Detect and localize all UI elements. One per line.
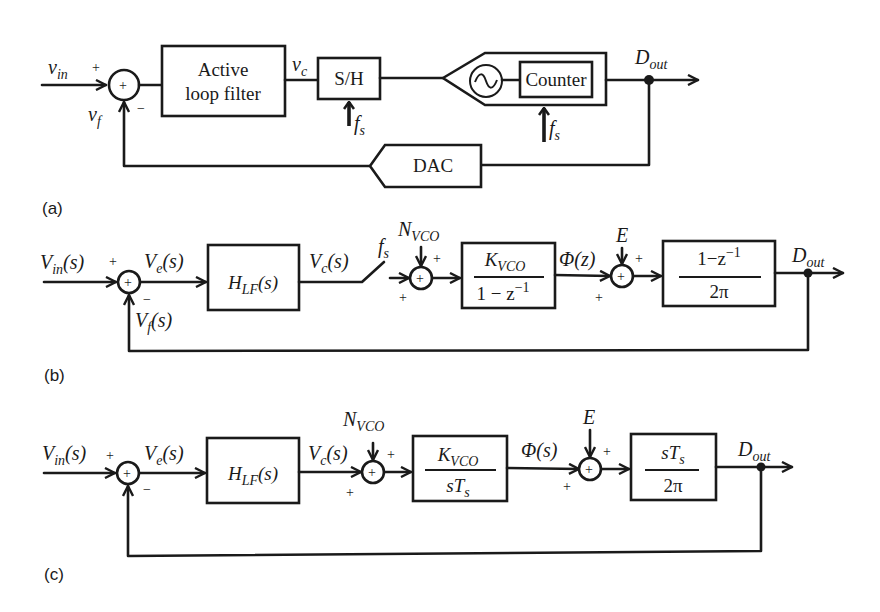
sign-minus-a: − — [137, 101, 145, 116]
signal-dout-a: Dout — [634, 46, 668, 72]
svg-text:S/H: S/H — [334, 68, 364, 89]
signal-vc-c: Vc(s) — [308, 442, 348, 468]
sample-hold-block: S/H — [318, 58, 380, 99]
loop-filter-block-c: HLF(s) — [207, 438, 299, 503]
active-loop-filter-block: Active loop filter — [162, 46, 285, 116]
signal-vc-a: vc — [292, 53, 308, 79]
signal-fs-sh: fs — [354, 112, 366, 138]
signal-vin-c: Vin(s) — [42, 442, 87, 468]
svg-text:DAC: DAC — [413, 155, 453, 176]
svg-text:+: + — [123, 466, 131, 481]
differentiator-block-c: sTs 2π — [631, 434, 716, 500]
panel-a: vin + + − vf Active loop filter vc S/H f… — [42, 46, 698, 218]
sign-minus-b1: − — [143, 292, 151, 307]
signal-e-c: E — [582, 406, 595, 428]
svg-text:loop filter: loop filter — [185, 83, 261, 104]
panel-c: Vin(s) + + − Ve(s) HLF(s) Vc(s) + NVCO +… — [42, 406, 792, 584]
sign-plus-c3-in: + — [563, 479, 571, 494]
sign-plus-b3-top: + — [635, 251, 643, 266]
summing-junction-c1: + — [117, 462, 139, 484]
sign-plus-c2-top: + — [387, 447, 395, 462]
signal-phi-z: Φ(z) — [559, 248, 596, 271]
counter-label: Counter — [525, 69, 587, 90]
vco-counter-block: Counter — [443, 53, 606, 105]
summing-junction-c3: + — [579, 458, 601, 480]
svg-text:+: + — [368, 465, 376, 480]
differentiator-block-b: 1−z−1 2π — [663, 241, 775, 306]
svg-text:+: + — [585, 462, 593, 477]
summing-junction-b2: + — [410, 267, 432, 289]
signal-vf-b: Vf(s) — [135, 309, 173, 335]
summing-junction-b3: + — [611, 265, 633, 287]
svg-text:+: + — [124, 275, 132, 290]
dac-block: DAC — [370, 145, 481, 187]
sign-plus-c1: + — [106, 448, 114, 463]
sign-plus-b2-in: + — [399, 290, 407, 305]
panel-label-c: (c) — [44, 565, 64, 584]
panel-b: Vin(s) + + − Ve(s) HLF(s) Vc(s) fs + NVC… — [40, 218, 843, 385]
svg-text:2π: 2π — [709, 281, 729, 302]
svg-text:+: + — [119, 78, 127, 93]
sign-minus-c1: − — [143, 482, 151, 497]
signal-vc-b: Vc(s) — [309, 250, 349, 276]
sign-plus-b2-top: + — [433, 251, 441, 266]
vco-block-c: KVCO sTs — [413, 436, 507, 501]
signal-vin-b: Vin(s) — [40, 251, 85, 277]
signal-nvco-b: NVCO — [397, 218, 439, 244]
signal-vf-a: vf — [88, 103, 103, 129]
summing-junction-c2: + — [362, 461, 384, 483]
summing-junction-a: + — [109, 70, 139, 100]
vco-block-b: KVCO 1 − z−1 — [462, 243, 555, 308]
sign-plus-c2-in: + — [346, 485, 354, 500]
signal-phi-s: Φ(s) — [521, 439, 558, 462]
signal-vin-a: vin — [48, 56, 68, 82]
summing-junction-b1: + — [118, 271, 140, 293]
sign-plus-c3-top: + — [603, 444, 611, 459]
panel-label-a: (a) — [42, 199, 63, 218]
sign-plus-b1: + — [109, 254, 117, 269]
loop-filter-block-b: HLF(s) — [208, 245, 299, 310]
svg-text:+: + — [416, 271, 424, 286]
svg-text:+: + — [617, 269, 625, 284]
sign-plus-b3-in: + — [595, 290, 603, 305]
signal-e-b: E — [615, 224, 628, 246]
signal-nvco-c: NVCO — [342, 408, 384, 434]
signal-ve-b: Ve(s) — [144, 250, 184, 276]
sign-plus-a: + — [92, 60, 100, 75]
block-diagram-figure: vin + + − vf Active loop filter vc S/H f… — [0, 0, 880, 612]
svg-text:Active: Active — [198, 59, 249, 80]
signal-dout-b: Dout — [791, 244, 825, 270]
svg-text:2π: 2π — [663, 475, 683, 496]
signal-fs-switch: fs — [378, 235, 390, 261]
signal-ve-c: Ve(s) — [144, 442, 184, 468]
signal-dout-c: Dout — [737, 438, 771, 464]
panel-label-b: (b) — [44, 366, 65, 385]
signal-fs-counter: fs — [549, 117, 561, 143]
